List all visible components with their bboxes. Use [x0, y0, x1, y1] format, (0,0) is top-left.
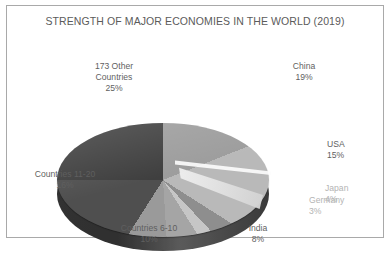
- slice-label-text: Countries 6-10: [121, 223, 177, 233]
- slice-label-text: 173 Other Countries: [95, 61, 133, 82]
- slice-label-173-other-countries: 173 Other Countries 25%: [71, 50, 157, 105]
- slice-value-text: 3%: [309, 206, 375, 217]
- slice-value-text: 16%: [13, 180, 117, 191]
- slice-value-text: 10%: [97, 234, 201, 245]
- slice-value-text: 8%: [227, 234, 289, 245]
- chart-frame: STRENGTH OF MAJOR ECONOMIES IN THE WORLD…: [6, 5, 384, 238]
- chart-title: STRENGTH OF MAJOR ECONOMIES IN THE WORLD…: [7, 15, 383, 27]
- slice-value-text: 19%: [269, 72, 339, 83]
- slice-label-germany: Germany 3%: [309, 184, 375, 228]
- slice-label-india: India 8%: [227, 212, 289, 255]
- slice-label-text: Countries 11-20: [35, 169, 96, 179]
- slice-label-text: China: [293, 61, 315, 71]
- slice-label-text: USA: [327, 139, 345, 149]
- slice-value-text: 25%: [71, 83, 157, 94]
- slice-label-text: India: [249, 223, 268, 233]
- slice-label-china: China 19%: [269, 50, 339, 94]
- slice-label-text: Germany: [309, 195, 344, 205]
- slice-label-countries-11-20: Countries 11-20 16%: [13, 158, 117, 202]
- slice-value-text: 15%: [327, 150, 377, 161]
- slice-label-usa: USA 15%: [327, 128, 377, 172]
- slice-label-countries-6-10: Countries 6-10 10%: [97, 212, 201, 255]
